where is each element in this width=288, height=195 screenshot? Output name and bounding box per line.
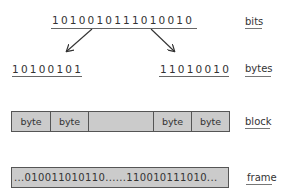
block-label: block	[245, 116, 272, 128]
byte-left-string: 10100101	[12, 63, 83, 75]
block-cell-empty	[89, 112, 154, 131]
block-bar: byte byte byte byte	[11, 111, 230, 132]
block-cell-byte: byte	[154, 112, 192, 131]
bits-string: 1010010111010010	[52, 14, 194, 26]
frame-label-underline	[246, 184, 272, 185]
block-cell-byte: byte	[192, 112, 229, 131]
frame-bar: ...010011010110......110010111010...	[11, 167, 229, 188]
bits-label: bits	[245, 16, 263, 28]
arrow-right	[151, 29, 174, 51]
block-cell-byte: byte	[12, 112, 51, 131]
byte-left-underline	[12, 76, 82, 77]
arrows-layer	[0, 0, 288, 195]
byte-right-underline	[159, 76, 229, 77]
bits-label-underline	[245, 28, 262, 29]
bytes-label-underline	[245, 76, 271, 77]
bytes-label: bytes	[245, 63, 273, 75]
bits-underline	[51, 28, 197, 29]
byte-right-string: 11010010	[160, 63, 231, 75]
arrow-left	[67, 29, 92, 51]
frame-label: frame	[247, 172, 277, 184]
block-cell-byte: byte	[51, 112, 89, 131]
block-label-underline	[245, 128, 270, 129]
frame-bitstream: ...010011010110......110010111010...	[12, 168, 228, 187]
